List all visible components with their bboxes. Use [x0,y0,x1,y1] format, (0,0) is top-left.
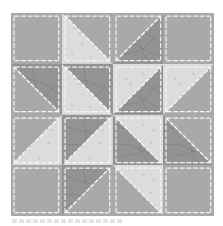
quilt-cell-r2-c2 [113,115,164,166]
half-square-triangle-patch [11,64,62,115]
quilt-cell-r2-c0 [11,115,62,166]
half-square-triangle-patch [11,115,62,166]
half-square-triangle-patch [62,115,113,166]
quilt-cell-r3-c2 [113,165,164,216]
quilt-cell-r0-c1 [62,13,113,64]
quilt-cell-r0-c0 [11,13,62,64]
caption-text-illegible [12,219,122,223]
quilt-cell-r1-c1 [62,64,113,115]
quilt-cell-r1-c0 [11,64,62,115]
quilt-cell-r0-c3 [163,13,214,64]
half-square-triangle-patch [113,13,164,64]
quilt-cell-r1-c2 [113,64,164,115]
solid-square-patch [11,165,62,216]
quilt-cell-r1-c3 [163,64,214,115]
half-square-triangle-patch [113,115,164,166]
solid-square-patch [163,165,214,216]
quilt-cell-r3-c0 [11,165,62,216]
half-square-triangle-patch [62,13,113,64]
quilt-cell-r0-c2 [113,13,164,64]
quilt-cell-r2-c3 [163,115,214,166]
half-square-triangle-patch [113,64,164,115]
quilt-block [11,13,214,216]
half-square-triangle-patch [62,64,113,115]
half-square-triangle-patch [113,165,164,216]
half-square-triangle-patch [163,115,214,166]
half-square-triangle-patch [62,165,113,216]
solid-square-patch [11,13,62,64]
half-square-triangle-patch [163,64,214,115]
solid-square-patch [163,13,214,64]
quilt-cell-r3-c3 [163,165,214,216]
quilt-cell-r3-c1 [62,165,113,216]
quilt-cell-r2-c1 [62,115,113,166]
